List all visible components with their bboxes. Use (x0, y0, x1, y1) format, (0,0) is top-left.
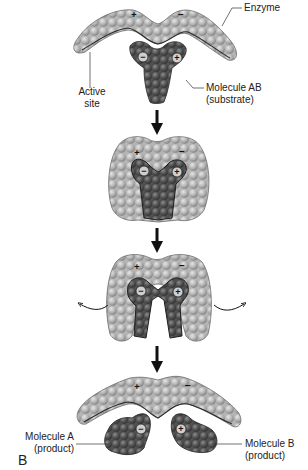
svg-text:+: + (134, 148, 139, 158)
charge-minus: − (178, 9, 184, 20)
curved-arrow-left-icon (80, 304, 108, 309)
curved-arrow-right-icon (214, 304, 244, 310)
active-site-label: Active site (72, 86, 112, 110)
enzyme-stage-3 (107, 255, 212, 342)
product-molecule-a (105, 414, 151, 455)
enzyme-label: Enzyme (244, 2, 280, 14)
svg-text:−: − (185, 380, 191, 391)
svg-text:+: + (134, 382, 139, 392)
svg-text:+: + (174, 167, 179, 177)
svg-text:−: − (138, 424, 143, 434)
svg-text:−: − (141, 166, 146, 176)
panel-label: B (18, 452, 27, 468)
stage-2: + − − + (109, 137, 209, 222)
charge-plus: + (131, 10, 136, 20)
svg-text:+: + (175, 287, 180, 297)
substrate-leader-line (186, 80, 204, 88)
substrate-label: Molecule AB (substrate) (206, 82, 262, 106)
svg-text:+: + (174, 53, 179, 63)
enzyme-leader-line (222, 8, 242, 26)
stage-3: + − − + (80, 255, 244, 342)
svg-text:−: − (140, 52, 145, 62)
stage-4: + − − + (76, 376, 242, 454)
svg-text:+: + (134, 262, 139, 272)
product-a-label: Molecule A (product) (20, 431, 74, 455)
product-b-label: Molecule B (product) (245, 438, 294, 462)
substrate-molecule-ab (130, 42, 187, 104)
svg-text:+: + (178, 424, 183, 434)
svg-text:−: − (179, 146, 185, 157)
enzyme-stage-4 (77, 376, 241, 427)
svg-text:−: − (179, 260, 185, 271)
diagram-canvas: + − − + + − − + + − − + (0, 0, 308, 470)
svg-text:−: − (138, 286, 143, 296)
